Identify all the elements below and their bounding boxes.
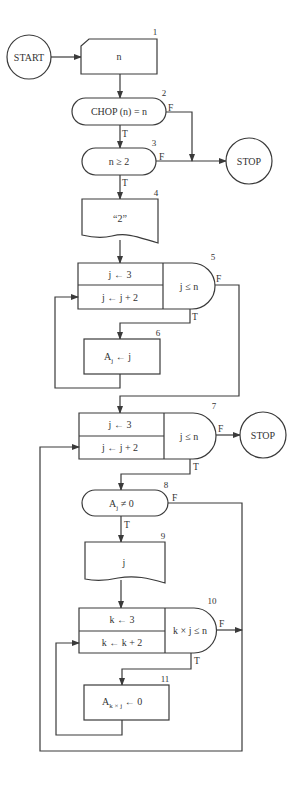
- node-10-init: k ← 3: [110, 614, 135, 625]
- node-8-false-label: F: [172, 493, 177, 503]
- node-5-init: j ← 3: [108, 269, 132, 280]
- node-6-process: Aj ← j 6: [84, 328, 161, 374]
- node-3-decision: n ≥ 2 3 F T: [82, 138, 164, 188]
- node-5-increment: j ← j + 2: [101, 292, 138, 303]
- node-7-true-label: T: [193, 462, 199, 472]
- arrow-2-false: [166, 112, 192, 161]
- node-1-input: n 1: [81, 27, 157, 74]
- node-10-condition: k × j ≤ n: [173, 625, 207, 636]
- node-7-false-label: F: [218, 424, 223, 434]
- node-8-true-label: T: [124, 520, 130, 530]
- sieve-flowchart: START n 1 CHOP (n) = n 2 F T n ≥ 2 3 F T…: [0, 0, 304, 786]
- node-2-true-label: T: [122, 129, 128, 139]
- node-5-loop: j ← 3 j ← j + 2 j ≤ n 5 F T: [78, 252, 221, 322]
- node-7-loop: j ← 3 j ← j + 2 j ≤ n 7 F T: [79, 401, 223, 472]
- stop-2-label: STOP: [251, 430, 276, 441]
- node-9-number: 9: [161, 531, 166, 541]
- node-3-text: n ≥ 2: [109, 156, 130, 167]
- node-7-number: 7: [212, 401, 217, 411]
- node-7-increment: j ← j + 2: [101, 442, 138, 453]
- node-5-number: 5: [211, 252, 216, 262]
- node-10-true-label: T: [194, 656, 200, 666]
- node-4-number: 4: [154, 188, 159, 198]
- arrow-10-true-to-11: [122, 653, 191, 685]
- node-1-text: n: [117, 51, 122, 62]
- stop-1-label: STOP: [237, 156, 262, 167]
- node-11-process: Ak × j ← 0 11: [84, 674, 169, 720]
- node-11-number: 11: [161, 674, 170, 684]
- arrow-7-true-to-8: [121, 459, 190, 490]
- node-5-true-label: T: [192, 312, 198, 322]
- node-9-output: j 9: [85, 531, 166, 583]
- node-9-text: j: [122, 557, 126, 568]
- node-8-decision: Aj ≠ 0 8 F T: [82, 480, 177, 530]
- node-3-number: 3: [152, 138, 157, 148]
- node-10-number: 10: [208, 596, 218, 606]
- node-3-true-label: T: [122, 178, 128, 188]
- node-4-text: “2”: [113, 213, 127, 224]
- node-10-false-label: F: [219, 619, 224, 629]
- node-1-number: 1: [153, 27, 158, 37]
- stop-terminal-2: STOP: [240, 412, 286, 458]
- node-10-increment: k ← k + 2: [102, 637, 143, 648]
- node-2-number: 2: [162, 88, 167, 98]
- node-6-number: 6: [156, 328, 161, 338]
- node-7-init: j ← 3: [108, 419, 132, 430]
- start-label: START: [14, 52, 44, 63]
- node-5-condition: j ≤ n: [179, 281, 198, 292]
- node-2-text: CHOP (n) = n: [91, 106, 147, 118]
- node-2-decision: CHOP (n) = n 2 F T: [72, 88, 173, 139]
- node-8-number: 8: [164, 480, 169, 490]
- node-5-false-label: F: [216, 274, 221, 284]
- start-terminal: START: [7, 35, 51, 79]
- node-7-condition: j ≤ n: [179, 431, 198, 442]
- node-10-loop: k ← 3 k ← k + 2 k × j ≤ n 10 F T: [79, 596, 224, 666]
- stop-terminal-1: STOP: [226, 138, 272, 184]
